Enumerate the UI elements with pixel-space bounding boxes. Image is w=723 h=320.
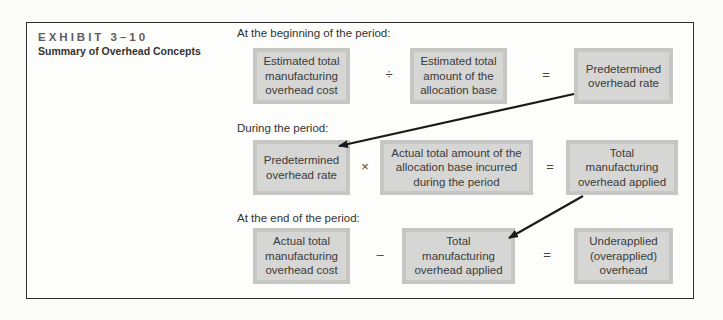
arrow-rate-to-row2 <box>339 94 574 146</box>
flow-arrows <box>0 0 723 320</box>
arrow-applied-to-row3 <box>509 196 583 238</box>
